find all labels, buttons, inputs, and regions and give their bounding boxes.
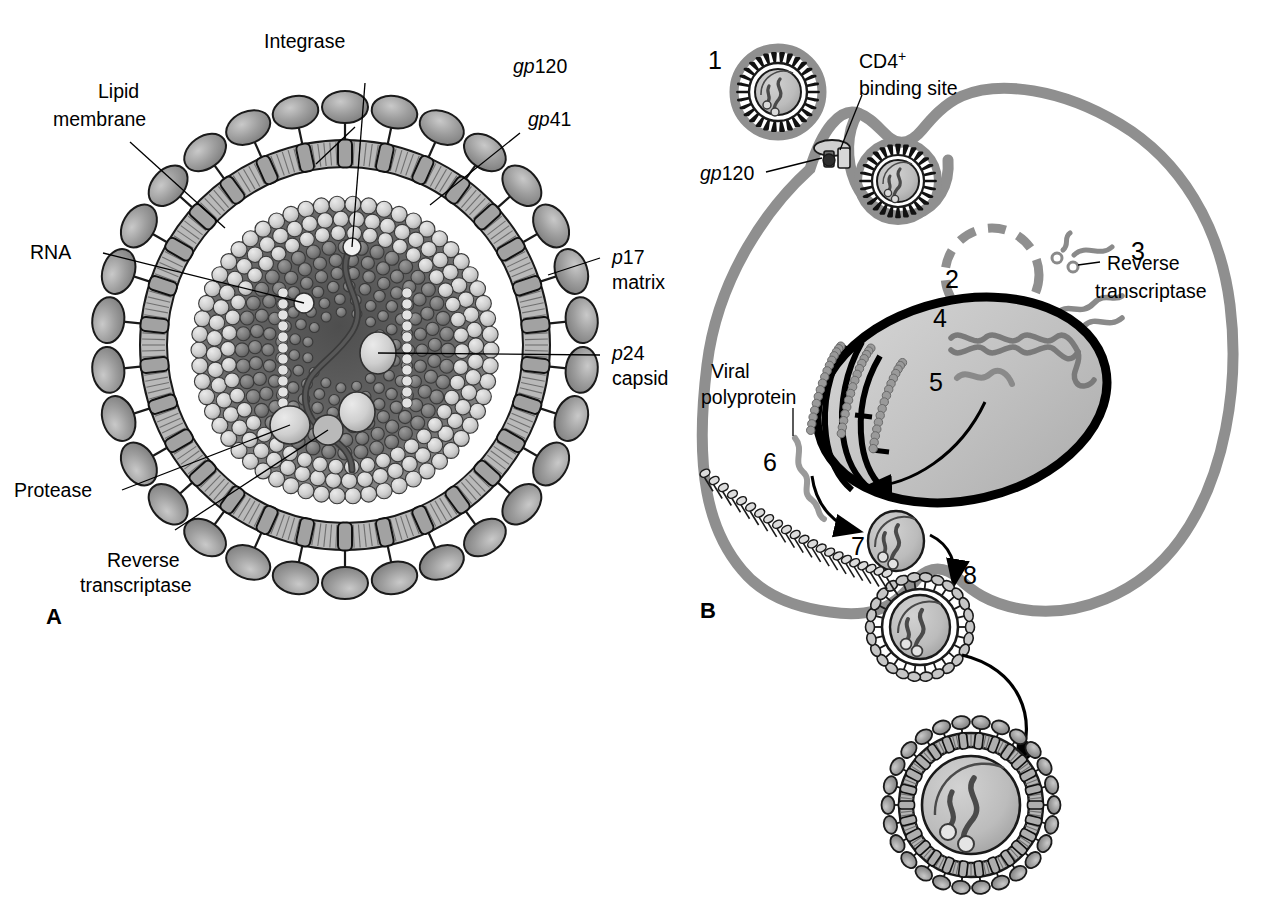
label-reverse-transcriptase-l1: Reverse: [107, 549, 180, 571]
panel-a-label: A: [46, 604, 62, 629]
hiv-figure: Integrase gp120 gp41 Lipid membrane RNA …: [0, 0, 1265, 903]
label-protease: Protease: [14, 479, 92, 501]
label-gp120-b-num: 120: [722, 162, 755, 184]
label-gp120: gp120: [513, 55, 567, 77]
step-number-8: 8: [963, 561, 977, 589]
label-p17-num: 17: [623, 246, 645, 268]
label-rna: RNA: [30, 241, 71, 263]
label-viral-polyprotein-l1: Viral: [711, 360, 750, 382]
virion-engulfed: [858, 141, 938, 221]
label-p17-prefix: p: [611, 246, 623, 268]
step-number-1: 1: [708, 46, 722, 74]
label-reverse-transcriptase-b-l1: Reverse: [1107, 252, 1180, 274]
step-number-6: 6: [763, 448, 777, 476]
label-cd4-text: CD4: [859, 50, 898, 72]
step-number-2: 2: [945, 265, 959, 293]
immature-particle-step-7: [868, 511, 924, 571]
label-gp120-prefix: gp: [513, 55, 535, 77]
label-cd4-binding-site-l1: CD4+: [859, 48, 906, 72]
label-gp120-b: gp120: [700, 162, 754, 184]
step-number-5: 5: [929, 368, 943, 396]
panel-a-virion: Integrase gp120 gp41 Lipid membrane RNA …: [14, 30, 668, 629]
label-p17: p17: [611, 246, 645, 268]
arrow-6-to-7: [812, 476, 858, 531]
step-number-4: 4: [933, 304, 947, 332]
viral-polyprotein-strand: [795, 438, 824, 519]
label-gp41-prefix: gp: [528, 108, 550, 130]
step-number-7: 7: [851, 532, 865, 560]
leader-reverse-transcriptase-b: [1078, 262, 1100, 265]
label-viral-polyprotein-l2: polyprotein: [701, 386, 796, 408]
label-reverse-transcriptase-b-l2: transcriptase: [1095, 280, 1207, 302]
p17-p24-core: [191, 196, 499, 504]
label-integrase: Integrase: [264, 30, 345, 52]
virion-step-1: [734, 48, 822, 136]
label-lipid-membrane-l2: membrane: [53, 108, 146, 130]
label-lipid-membrane-l1: Lipid: [98, 80, 139, 102]
label-gp120-num: 120: [535, 55, 568, 77]
label-cd4-superscript: +: [898, 48, 906, 64]
label-gp41-num: 41: [550, 108, 572, 130]
label-reverse-transcriptase-l2: transcriptase: [80, 574, 192, 596]
label-p17-matrix: matrix: [612, 271, 665, 293]
mature-virion-released: [882, 715, 1061, 895]
label-gp120-b-prefix: gp: [700, 162, 722, 184]
label-p24-num: 24: [623, 342, 645, 364]
budding-virion-step-8: [866, 572, 975, 682]
cd4-receptor-complex: [814, 140, 850, 168]
label-cd4-binding-site-l2: binding site: [859, 77, 958, 99]
panel-b-label: B: [700, 598, 716, 623]
label-p24: p24: [611, 342, 645, 364]
label-p24-capsid: capsid: [612, 367, 668, 389]
label-p24-prefix: p: [611, 342, 623, 364]
label-gp41: gp41: [528, 108, 571, 130]
panel-b-replication-cycle: 1 2 3 4 5 6 7 8 CD4+ binding site gp120 …: [699, 46, 1233, 895]
